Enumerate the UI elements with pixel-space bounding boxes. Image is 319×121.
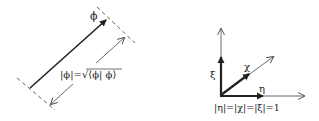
dimension-arrow-lower	[51, 84, 73, 104]
phi-label: ϕ	[90, 10, 98, 23]
eta-label: η	[259, 83, 265, 94]
left-diagram: ϕ |ϕ|=√⟨ϕ| ϕ⟩	[17, 7, 135, 110]
vector-norm-diagram: ϕ |ϕ|=√⟨ϕ| ϕ⟩ ξ χ η |η|=|χ|=|ξ|=1	[0, 0, 319, 121]
unit-norm-caption: |η|=|χ|=|ξ|=1	[214, 102, 280, 114]
chi-vector-arrow	[221, 74, 249, 95]
dimension-arrow-upper	[96, 38, 124, 63]
xi-label: ξ	[210, 69, 216, 80]
dashed-extension-top	[97, 7, 135, 43]
chi-label: χ	[244, 61, 250, 72]
right-diagram: ξ χ η |η|=|χ|=|ξ|=1	[210, 29, 304, 114]
norm-formula: |ϕ|=√⟨ϕ| ϕ⟩	[60, 69, 116, 81]
